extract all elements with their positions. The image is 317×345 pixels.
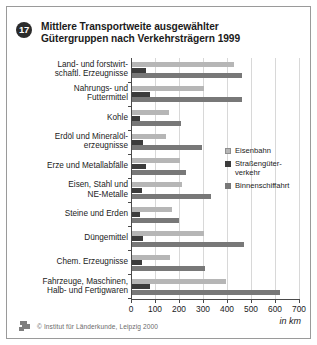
legend-label-line: Binnenschiffahrt	[235, 182, 289, 190]
legend-swatch-icon	[225, 148, 231, 154]
category-label-line: Nahrungs- und	[13, 84, 128, 93]
figure-frame: 17 Mittlere Transportweite ausgewählter …	[6, 6, 311, 339]
category-label-line: Erze und Metallabfälle	[13, 161, 128, 170]
category-label: Kohle	[13, 113, 128, 122]
x-tick-label-300: 300	[190, 304, 216, 314]
bar-binnenschiffahrt	[132, 97, 242, 102]
category-label: Erze und Metallabfälle	[13, 161, 128, 170]
legend-label: Binnenschiffahrt	[235, 182, 289, 190]
x-tick-700	[299, 299, 300, 303]
x-tick-600	[275, 299, 276, 303]
legend-label: Straßengüter-verkehr	[235, 160, 282, 177]
bar-stra-eng-terverkehr	[132, 236, 143, 241]
category-label: Nahrungs- undFuttermittel	[13, 84, 128, 103]
category-label-line: erzeugnisse	[13, 141, 128, 150]
x-tick-label-700: 700	[286, 304, 312, 314]
x-tick-label-500: 500	[238, 304, 264, 314]
bar-eisenbahn	[132, 158, 180, 163]
category-label-line: Düngemittel	[13, 233, 128, 242]
category-label-line: Steine und Erden	[13, 209, 128, 218]
category-label-line: Halb- und Fertigwaren	[13, 286, 128, 295]
bar-binnenschiffahrt	[132, 145, 202, 150]
x-tick-label-200: 200	[166, 304, 192, 314]
chart-row: Steine und Erden	[7, 203, 312, 227]
category-label-line: NE-Metalle	[13, 190, 128, 199]
bar-eisenbahn	[132, 207, 172, 212]
bar-group	[132, 86, 302, 102]
copyright-text: © Institut für Länderkunde, Leipzig 2000	[37, 323, 158, 330]
x-axis-unit-label: in km	[279, 316, 301, 326]
bar-eisenbahn	[132, 255, 170, 260]
category-label-line: Chem. Erzeugnisse	[13, 257, 128, 266]
bar-binnenschiffahrt	[132, 121, 181, 126]
x-tick-label-400: 400	[214, 304, 240, 314]
bar-binnenschiffahrt	[132, 170, 186, 175]
bar-binnenschiffahrt	[132, 266, 205, 271]
chart-row: Kohle	[7, 106, 312, 130]
bar-binnenschiffahrt	[132, 218, 179, 223]
bar-binnenschiffahrt	[132, 242, 244, 247]
chart-row: Land- und forstwirt-schaftl. Erzeugnisse	[7, 58, 312, 82]
category-label: Fahrzeuge, Maschinen,Halb- und Fertigwar…	[13, 277, 128, 296]
bar-eisenbahn	[132, 110, 169, 115]
bar-group	[132, 62, 302, 78]
category-label: Chem. Erzeugnisse	[13, 257, 128, 266]
bar-eisenbahn	[132, 62, 234, 67]
category-label-line: Land- und forstwirt-	[13, 60, 128, 69]
legend-swatch-icon	[225, 161, 231, 167]
legend-swatch-icon	[225, 183, 231, 189]
x-tick-label-100: 100	[142, 304, 168, 314]
bar-stra-eng-terverkehr	[132, 212, 140, 217]
bar-stra-eng-terverkehr	[132, 116, 140, 121]
category-label-line: Futtermittel	[13, 93, 128, 102]
category-label-line: schaftl. Erzeugnisse	[13, 69, 128, 78]
bar-group	[132, 255, 302, 271]
bar-group	[132, 207, 302, 223]
category-label: Düngemittel	[13, 233, 128, 242]
bar-stra-eng-terverkehr	[132, 164, 146, 169]
x-tick-100	[155, 299, 156, 303]
category-label-line: Fahrzeuge, Maschinen,	[13, 277, 128, 286]
bar-group	[132, 279, 302, 295]
bar-eisenbahn	[132, 279, 226, 284]
bar-eisenbahn	[132, 86, 204, 91]
chart-legend: EisenbahnStraßengüter-verkehrBinnenschif…	[225, 147, 309, 196]
category-label: Eisen, Stahl undNE-Metalle	[13, 180, 128, 199]
legend-item-stra-eng-terverkehr: Straßengüter-verkehr	[225, 160, 309, 177]
x-tick-0	[131, 299, 132, 303]
chart-row: Nahrungs- undFuttermittel	[7, 82, 312, 106]
category-label: Steine und Erden	[13, 209, 128, 218]
figure-footer: © Institut für Länderkunde, Leipzig 2000	[19, 320, 158, 332]
x-tick-label-600: 600	[262, 304, 288, 314]
bar-eisenbahn	[132, 231, 204, 236]
legend-label-line: Eisenbahn	[235, 147, 271, 155]
bar-group	[132, 110, 302, 126]
bar-stra-eng-terverkehr	[132, 284, 150, 289]
bar-binnenschiffahrt	[132, 73, 242, 78]
x-tick-500	[251, 299, 252, 303]
chart-row: Chem. Erzeugnisse	[7, 251, 312, 275]
bar-group	[132, 231, 302, 247]
category-label: Erdöl und Mineralöl-erzeugnisse	[13, 132, 128, 151]
legend-label-line: verkehr	[235, 169, 282, 177]
figure-page: 17 Mittlere Transportweite ausgewählter …	[0, 0, 317, 345]
bar-eisenbahn	[132, 134, 166, 139]
bar-stra-eng-terverkehr	[132, 140, 143, 145]
legend-item-eisenbahn: Eisenbahn	[225, 147, 309, 155]
category-label: Land- und forstwirt-schaftl. Erzeugnisse	[13, 60, 128, 79]
chart-row: Düngemittel	[7, 227, 312, 251]
category-tick	[128, 298, 132, 299]
bar-binnenschiffahrt	[132, 194, 211, 199]
x-tick-300	[203, 299, 204, 303]
category-label-line: Kohle	[13, 113, 128, 122]
bar-stra-eng-terverkehr	[132, 260, 142, 265]
category-label-line: Eisen, Stahl und	[13, 180, 128, 189]
legend-label: Eisenbahn	[235, 147, 271, 155]
bar-stra-eng-terverkehr	[132, 188, 142, 193]
bar-stra-eng-terverkehr	[132, 92, 150, 97]
x-tick-200	[179, 299, 180, 303]
bar-stra-eng-terverkehr	[132, 68, 146, 73]
x-tick-400	[227, 299, 228, 303]
x-tick-label-0: 0	[118, 304, 144, 314]
chart-row: Fahrzeuge, Maschinen,Halb- und Fertigwar…	[7, 275, 312, 299]
